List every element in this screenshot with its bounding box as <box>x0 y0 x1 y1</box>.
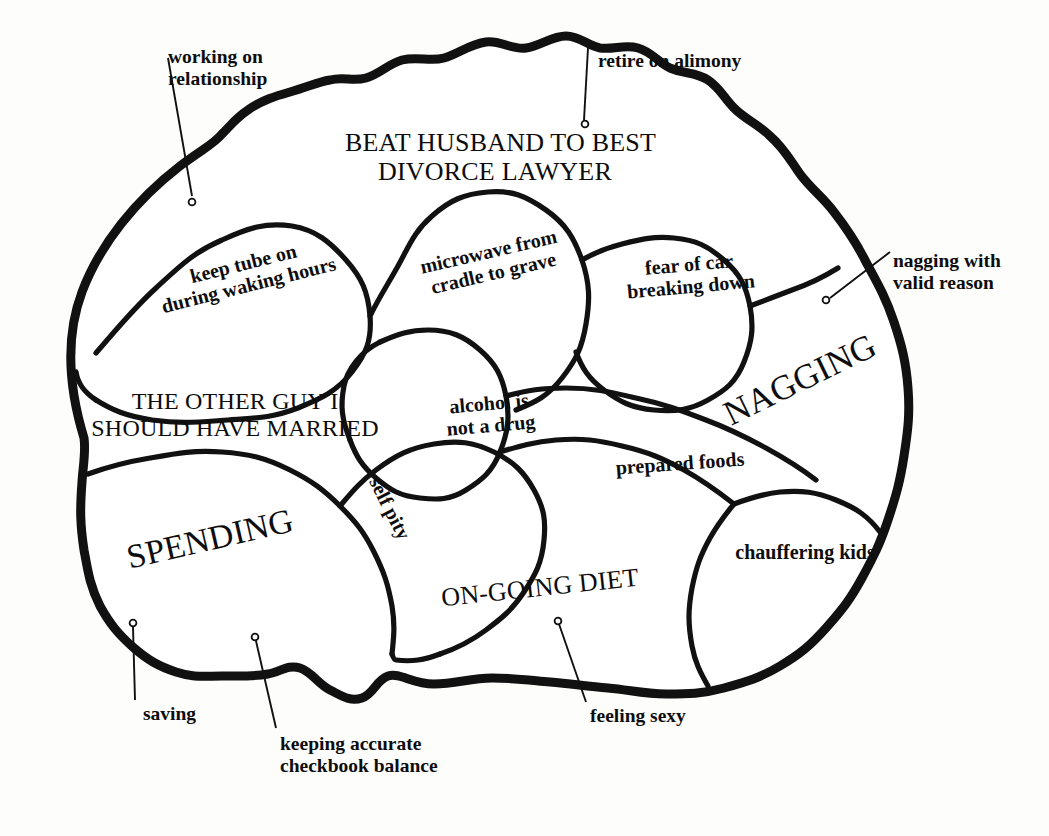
callout-label-retire-on-alimony: retire on alimony <box>598 50 788 72</box>
callout-label-feeling-sexy: feeling sexy <box>590 705 720 727</box>
callout-label-keeping-accurate: keeping accurate checkbook balance <box>280 733 480 777</box>
brain-diagram-canvas: BEAT HUSBAND TO BEST DIVORCE LAWYERkeep … <box>0 0 1049 836</box>
callout-label-working-on-relationship: working on relationship <box>168 46 318 90</box>
region-label-other-guy: THE OTHER GUY I SHOULD HAVE MARRIED <box>70 388 400 442</box>
callout-label-nagging-with-valid-reason: nagging with valid reason <box>893 250 1049 294</box>
region-label-chauffering-kids: chauffering kids <box>715 541 895 563</box>
region-label-beat-husband: BEAT HUSBAND TO BEST DIVORCE LAWYER <box>345 128 645 186</box>
callout-label-saving: saving <box>143 703 233 725</box>
